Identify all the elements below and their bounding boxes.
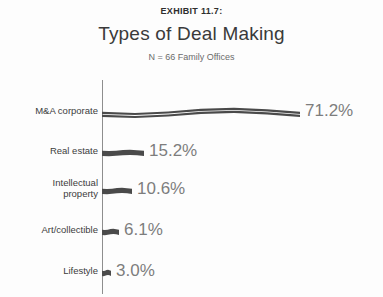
value-label: 71.2% bbox=[305, 102, 353, 119]
exhibit-label: EXHIBIT 11.7: bbox=[0, 6, 383, 16]
bar-row: M&A corporate71.2% bbox=[0, 90, 383, 130]
chart-subtitle: N = 66 Family Offices bbox=[0, 52, 383, 62]
bar-row: Real estate15.2% bbox=[0, 130, 383, 170]
category-label: Art/collectible bbox=[0, 224, 98, 235]
bar bbox=[102, 185, 132, 191]
bar bbox=[102, 267, 111, 273]
bar-row: Art/collectible6.1% bbox=[0, 209, 383, 249]
chart-header: EXHIBIT 11.7: Types of Deal Making N = 6… bbox=[0, 0, 383, 62]
bar-row: Lifestyle3.0% bbox=[0, 250, 383, 290]
category-label: Lifestyle bbox=[0, 265, 98, 276]
category-label: Intellectualproperty bbox=[0, 177, 98, 199]
bar-with-label: 10.6% bbox=[102, 181, 185, 195]
bar-with-label: 15.2% bbox=[102, 143, 197, 157]
category-label: Real estate bbox=[0, 145, 98, 156]
bar bbox=[102, 226, 119, 232]
chart-title: Types of Deal Making bbox=[0, 23, 383, 45]
chart-container: EXHIBIT 11.7: Types of Deal Making N = 6… bbox=[0, 0, 383, 297]
plot-area: M&A corporate71.2%Real estate15.2%Intell… bbox=[0, 80, 383, 297]
value-label: 15.2% bbox=[149, 142, 197, 159]
bar bbox=[102, 107, 300, 113]
bar bbox=[102, 147, 144, 153]
bar-with-label: 71.2% bbox=[102, 103, 353, 117]
bar-row: Intellectualproperty10.6% bbox=[0, 168, 383, 208]
value-label: 3.0% bbox=[116, 262, 155, 279]
category-label: M&A corporate bbox=[0, 105, 98, 116]
value-label: 10.6% bbox=[137, 180, 185, 197]
bar-with-label: 3.0% bbox=[102, 263, 155, 277]
bar-with-label: 6.1% bbox=[102, 222, 163, 236]
value-label: 6.1% bbox=[124, 221, 163, 238]
